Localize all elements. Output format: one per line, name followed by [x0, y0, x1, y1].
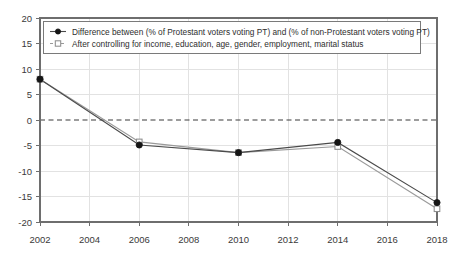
- data-point-difference: [434, 200, 440, 206]
- legend-entry-control[interactable]: After controlling for income, education,…: [50, 39, 363, 49]
- data-point-difference: [235, 150, 241, 156]
- y-tick-marks: [36, 18, 40, 222]
- filled-circle-icon: [55, 29, 60, 34]
- x-tick-label: 2002: [29, 234, 50, 245]
- y-tick-label: -5: [24, 140, 32, 151]
- legend-label-control: After controlling for income, education,…: [72, 39, 363, 49]
- chart-container: 20 15 10 5 0 -5 -10 -15 -20 2002 2004 20…: [0, 0, 464, 260]
- line-chart: 20 15 10 5 0 -5 -10 -15 -20 2002 2004 20…: [0, 0, 464, 260]
- x-tick-label: 2012: [278, 234, 299, 245]
- y-tick-label: 5: [27, 89, 32, 100]
- x-axis-labels: 2002 2004 2006 2008 2010 2012 2014 2016 …: [29, 234, 447, 245]
- x-tick-label: 2006: [129, 234, 150, 245]
- x-tick-label: 2010: [228, 234, 249, 245]
- y-tick-label: 10: [21, 64, 32, 75]
- data-point-difference: [136, 142, 142, 148]
- y-tick-label: -15: [18, 191, 32, 202]
- y-tick-label: 15: [21, 38, 32, 49]
- hollow-square-icon: [55, 41, 60, 46]
- x-tick-label: 2014: [327, 234, 348, 245]
- x-tick-label: 2018: [426, 234, 447, 245]
- x-tick-label: 2016: [377, 234, 398, 245]
- y-tick-label: 20: [21, 13, 32, 24]
- x-tick-label: 2004: [79, 234, 100, 245]
- data-point-difference: [37, 76, 43, 82]
- legend: Difference between (% of Protestant vote…: [43, 21, 430, 53]
- x-tick-label: 2008: [178, 234, 199, 245]
- y-tick-label: -10: [18, 166, 32, 177]
- data-point-difference: [335, 139, 341, 145]
- y-axis-labels: 20 15 10 5 0 -5 -10 -15 -20: [18, 13, 32, 228]
- y-tick-label: -20: [18, 217, 32, 228]
- legend-entry-difference[interactable]: Difference between (% of Protestant vote…: [50, 27, 430, 37]
- y-tick-label: 0: [27, 115, 32, 126]
- data-point-control: [434, 206, 440, 212]
- x-tick-marks: [40, 222, 437, 226]
- legend-label-difference: Difference between (% of Protestant vote…: [72, 27, 430, 37]
